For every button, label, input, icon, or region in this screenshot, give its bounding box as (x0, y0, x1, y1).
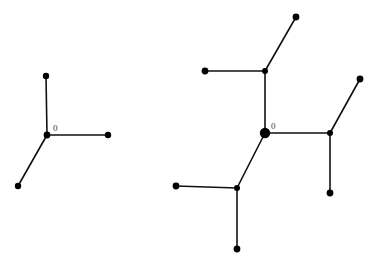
right-tree-labels: 0 (271, 121, 276, 131)
tree-root-node (260, 128, 270, 138)
tree-node (43, 73, 49, 79)
tree-node (202, 68, 209, 75)
left-tree-labels: 0 (53, 123, 58, 133)
tree-node (105, 132, 111, 138)
tree-node (327, 190, 334, 197)
tree-node (357, 76, 364, 83)
tree-node-label: 0 (53, 123, 58, 133)
tree-node (262, 68, 268, 74)
tree-node (234, 185, 240, 191)
tree-root-node (44, 132, 51, 139)
tree-node (234, 246, 241, 253)
tree-node (327, 130, 333, 136)
tree-node (15, 183, 21, 189)
tree-diagram-figure: 0 0 (0, 0, 376, 267)
tree-node (293, 14, 300, 21)
tree-edge (46, 76, 47, 135)
tree-node-label: 0 (271, 121, 276, 131)
tree-node (173, 183, 180, 190)
